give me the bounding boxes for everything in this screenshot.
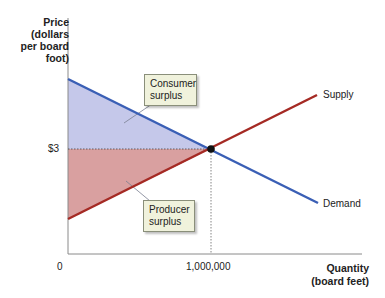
y-axis-label: Price (dollars per board foot) (0, 16, 69, 64)
y-axis-label-line: per board (0, 40, 69, 52)
y-axis-label-line: (dollars (0, 28, 69, 40)
y-axis-label-line: Price (0, 16, 69, 28)
origin-label: 0 (57, 261, 63, 273)
callout-text: Producer (149, 204, 189, 216)
supply-label: Supply (323, 89, 354, 101)
callout-text: surplus (150, 90, 191, 102)
y-axis-label-line: foot) (0, 52, 69, 64)
x-axis-label-line: Quantity (311, 262, 369, 275)
callout-text: Consumer (150, 78, 191, 90)
x-axis-label: Quantity (board feet) (311, 262, 369, 288)
x-axis-label-line: (board feet) (311, 275, 369, 288)
demand-label: Demand (323, 198, 361, 210)
consumer-surplus-callout: Consumer surplus (144, 74, 197, 106)
callout-text: surplus (149, 216, 189, 228)
producer-surplus-callout: Producer surplus (143, 200, 195, 232)
equilibrium-point (207, 145, 215, 153)
x-tick-label: 1,000,000 (186, 261, 231, 273)
y-tick-label: $3 (48, 143, 59, 155)
